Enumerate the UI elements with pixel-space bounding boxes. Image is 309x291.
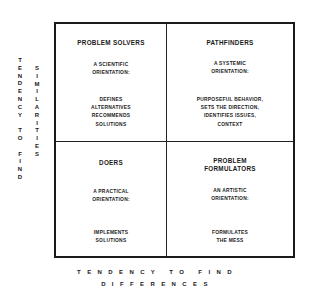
axis-letter: S [35,65,39,73]
quadrant-title: PATHFINDERS [167,39,293,47]
axis-letter: I [36,120,38,128]
y-axis-label-line1: TENDENCY TO FIND [16,57,24,182]
quadrant-orientation: A PRACTICAL ORIENTATION: [56,188,166,205]
quadrant-orientation: A SCIENTIFIC ORIENTATION: [56,61,166,78]
quadrant-problem-formulators: PROBLEM FORMULATORS AN ARTISTIC ORIENTAT… [167,142,293,256]
axis-letter: D [18,174,22,182]
axis-letter: O [18,135,23,143]
axis-letter: N [18,96,22,104]
axis-letter: F [18,151,22,159]
quadrant-description: PURPOSEFUL BEHAVIOR, SETS THE DIRECTION,… [167,96,293,129]
axis-letter: N [18,166,22,174]
quadrant-description: DEFINES ALTERNATIVES RECOMMENDS SOLUTION… [56,96,166,129]
axis-letter: N [18,73,22,81]
axis-letter: E [18,65,22,73]
axis-letter: R [35,112,39,120]
y-axis-label-line2: SIMILARITIES [33,65,41,159]
quadrant-doers: DOERS A PRACTICAL ORIENTATION: IMPLEMENT… [56,142,167,256]
axis-letter: E [18,88,22,96]
axis-letter: D [18,80,22,88]
axis-letter: C [18,104,22,112]
axis-letter: A [35,104,39,112]
axis-letter: L [35,96,39,104]
quadrant-description: IMPLEMENTS SOLUTIONS [56,229,166,245]
axis-letter [19,143,21,151]
x-axis-label-line2: DIFFERENCES [3,281,309,287]
axis-letter: I [36,88,38,96]
axis-letter: I [19,158,21,166]
quadrant-title: PROBLEM FORMULATORS [167,157,293,173]
quadrant-title: PROBLEM SOLVERS [56,39,166,47]
quadrant-description: FORMULATES THE MESS [167,229,293,245]
axis-letter: I [36,135,38,143]
axis-letter: T [35,127,39,135]
axis-letter: T [18,57,22,65]
x-axis-label-line1: TENDENCY TO FIND [3,269,309,275]
quadrant-orientation: A SYSTEMIC ORIENTATION: [167,60,293,77]
axis-letter: I [36,73,38,81]
quadrant-pathfinders: PATHFINDERS A SYSTEMIC ORIENTATION: PURP… [167,24,293,142]
axis-letter: S [35,151,39,159]
quadrant-title: DOERS [56,159,166,167]
quadrant-grid: PROBLEM SOLVERS A SCIENTIFIC ORIENTATION… [54,22,295,258]
axis-letter: E [35,143,39,151]
axis-letter: M [35,81,40,89]
axis-letter: T [18,127,22,135]
axis-letter: Y [18,112,22,120]
axis-letter [19,119,21,127]
quadrant-problem-solvers: PROBLEM SOLVERS A SCIENTIFIC ORIENTATION… [56,24,167,142]
quadrant-orientation: AN ARTISTIC ORIENTATION: [167,187,293,204]
